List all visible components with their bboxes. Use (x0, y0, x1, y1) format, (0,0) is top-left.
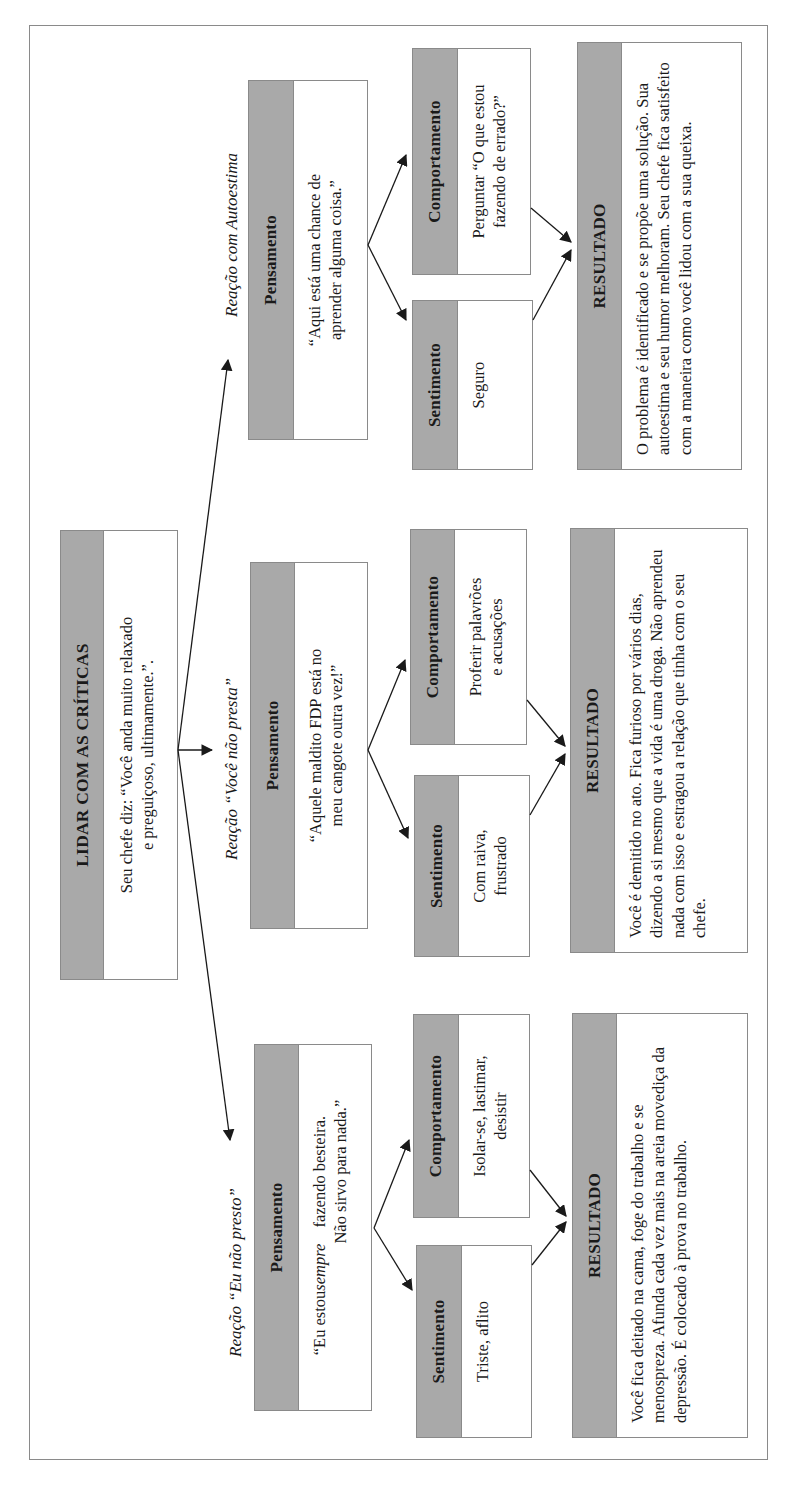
diagram-canvas: LIDAR COM AS CRÍTICAS Seu chefe diz: “Vo… (0, 0, 797, 1500)
arrow-feeling-to-result (532, 1222, 566, 1265)
arrow-behavior-to-result (531, 208, 571, 242)
arrow-thought-to-feeling (368, 245, 406, 320)
arrow-behavior-to-result (530, 1170, 566, 1216)
arrow-title-to-eu-nao-presto (178, 750, 230, 1140)
arrow-thought-to-behavior (374, 1140, 409, 1228)
arrow-feeling-to-result (530, 754, 565, 815)
arrows-layer (0, 0, 797, 1500)
arrow-thought-to-feeling (368, 750, 408, 838)
arrow-feeling-to-result (533, 250, 571, 320)
arrow-behavior-to-result (527, 700, 565, 746)
arrow-thought-to-behavior (368, 660, 405, 750)
arrow-title-to-autoestima (178, 360, 228, 750)
arrow-thought-to-behavior (368, 155, 406, 245)
arrow-thought-to-feeling (374, 1228, 412, 1290)
